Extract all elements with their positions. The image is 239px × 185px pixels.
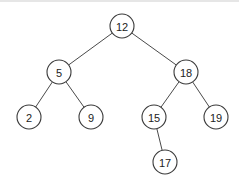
node-label: 19 xyxy=(210,112,222,124)
tree-node-19: 19 xyxy=(204,105,228,129)
tree-node-12: 12 xyxy=(110,14,134,38)
node-label: 5 xyxy=(56,67,62,79)
node-label: 17 xyxy=(159,157,171,169)
binary-tree-diagram: 1251829151917 xyxy=(0,0,239,185)
edge-18-19 xyxy=(193,82,210,107)
edge-12-5 xyxy=(69,33,113,65)
node-label: 2 xyxy=(26,112,32,124)
node-label: 9 xyxy=(88,112,94,124)
tree-node-2: 2 xyxy=(17,105,41,129)
tree-node-15: 15 xyxy=(142,105,166,129)
tree-nodes: 1251829151917 xyxy=(17,14,228,174)
node-label: 12 xyxy=(116,21,128,33)
edge-5-9 xyxy=(66,82,84,107)
edge-18-15 xyxy=(161,82,179,107)
tree-node-5: 5 xyxy=(47,60,71,84)
edge-15-17 xyxy=(157,129,162,151)
tree-node-9: 9 xyxy=(79,105,103,129)
node-label: 18 xyxy=(180,67,192,79)
node-label: 15 xyxy=(148,112,160,124)
tree-node-17: 17 xyxy=(153,150,177,174)
tree-edges xyxy=(36,33,210,150)
edge-5-2 xyxy=(36,82,53,107)
tree-node-18: 18 xyxy=(174,60,198,84)
edge-12-18 xyxy=(132,33,177,65)
